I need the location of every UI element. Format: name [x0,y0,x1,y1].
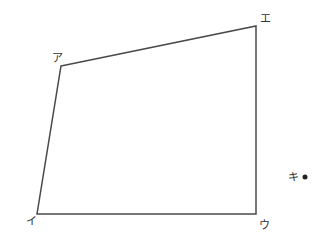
diagram-canvas: ア エ ウ イ キ [0,0,322,246]
point-ki-dot [303,175,308,180]
vertex-label-u: ウ [259,219,270,232]
quadrilateral [37,26,256,214]
vertex-label-i: イ [26,215,37,228]
point-label-ki: キ [288,171,299,184]
vertex-label-e: エ [260,12,271,25]
vertex-label-a: ア [52,52,63,65]
